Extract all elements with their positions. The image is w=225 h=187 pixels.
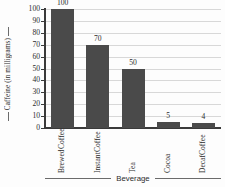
category-label: DecafCoffee bbox=[199, 131, 208, 173]
x-axis-title: Beverage bbox=[45, 172, 221, 184]
bar: 100 bbox=[51, 9, 74, 128]
category-label-line: Coffee bbox=[58, 129, 67, 150]
y-axis-tick-label: 90 bbox=[32, 17, 40, 25]
category-label: Cocoa bbox=[164, 131, 173, 173]
category-label: BrewedCoffee bbox=[58, 131, 67, 173]
bar: 4 bbox=[192, 123, 215, 128]
bar-slot: 5 bbox=[151, 9, 186, 128]
y-axis-tick-label: 100 bbox=[29, 5, 40, 13]
bar-value-label: 5 bbox=[166, 112, 170, 120]
y-axis-tick-labels: 0102030405060708090100 bbox=[17, 9, 42, 128]
category-label: Tea bbox=[129, 131, 138, 173]
bar-series: 100705054 bbox=[45, 9, 221, 128]
bar-value-label: 50 bbox=[129, 59, 137, 67]
bar: 5 bbox=[157, 122, 180, 128]
category-label-line: Coffee bbox=[94, 132, 103, 153]
bar-chart: Caffeine (in milligrams) 010203040506070… bbox=[0, 0, 225, 187]
category-label-slot: DecafCoffee bbox=[186, 131, 221, 173]
y-axis-tick-label: 70 bbox=[32, 41, 40, 49]
bar-slot: 100 bbox=[45, 9, 80, 128]
y-axis-title-rule-bottom bbox=[8, 112, 9, 121]
y-axis-title-text: Caffeine (in milligrams) bbox=[4, 38, 12, 110]
bar-value-label: 70 bbox=[94, 35, 102, 43]
category-label-line: Coffee bbox=[199, 134, 208, 155]
category-label-line: Cocoa bbox=[164, 154, 173, 173]
category-label-line: Decaf bbox=[199, 155, 208, 173]
x-axis-category-labels: BrewedCoffeeInstantCoffeeTeaCocoaDecafCo… bbox=[45, 131, 221, 173]
bar-slot: 70 bbox=[80, 9, 115, 128]
bar-slot: 50 bbox=[115, 9, 150, 128]
y-axis-title-rule-top bbox=[8, 27, 9, 36]
bar-value-label: 4 bbox=[202, 113, 206, 121]
y-axis-tick-label: 10 bbox=[32, 112, 40, 120]
bar: 50 bbox=[122, 69, 145, 129]
category-label-slot: Tea bbox=[115, 131, 150, 173]
y-axis-tick-label: 50 bbox=[32, 65, 40, 73]
category-label-line: Instant bbox=[94, 152, 103, 173]
category-label-slot: InstantCoffee bbox=[80, 131, 115, 173]
y-axis-tick-label: 30 bbox=[32, 89, 40, 97]
bar-slot: 4 bbox=[186, 9, 221, 128]
category-label-line: Brewed bbox=[58, 149, 67, 173]
y-axis-title: Caffeine (in milligrams) bbox=[0, 8, 16, 140]
y-axis-tick-label: 40 bbox=[32, 77, 40, 85]
y-axis-tick-label: 80 bbox=[32, 29, 40, 37]
x-axis-title-rule-left bbox=[45, 178, 111, 179]
x-axis-title-rule-right bbox=[155, 178, 221, 179]
y-axis-tick-label: 0 bbox=[36, 124, 40, 132]
bar-value-label: 100 bbox=[57, 0, 68, 7]
y-axis-tick-label: 60 bbox=[32, 53, 40, 61]
category-label-slot: Cocoa bbox=[151, 131, 186, 173]
category-label: InstantCoffee bbox=[94, 131, 103, 173]
category-label-slot: BrewedCoffee bbox=[45, 131, 80, 173]
y-axis-tick-label: 20 bbox=[32, 100, 40, 108]
x-axis-title-text: Beverage bbox=[111, 174, 154, 183]
bar: 70 bbox=[86, 45, 109, 128]
